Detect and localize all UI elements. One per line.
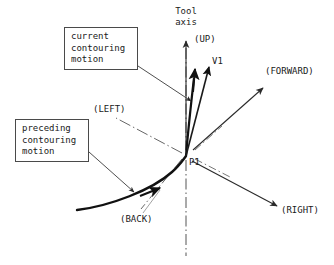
point-p1-label: P1	[189, 157, 200, 168]
tool-axis-title-line2: axis	[175, 17, 197, 27]
back-direction-label: (BACK)	[120, 214, 153, 225]
right-direction-stub	[195, 159, 232, 178]
forward-direction-label: (FORWARD)	[265, 66, 314, 77]
forward-direction-arrow	[193, 88, 263, 150]
tool-axis-diagram: Toolaxis (UP) V1 (FORWARD) (LEFT) (RIGHT…	[0, 0, 334, 265]
preceding-motion-callout-line3: motion	[22, 146, 83, 158]
v1-vector-label: V1	[212, 56, 223, 67]
back-direction-axis	[141, 159, 182, 209]
right-direction-arrow	[192, 161, 277, 206]
left-direction-label: (LEFT)	[93, 104, 126, 115]
right-direction-label: (RIGHT)	[281, 205, 319, 216]
preceding-motion-callout-line1: preceding	[22, 123, 83, 135]
up-direction-label: (UP)	[194, 34, 216, 45]
preceding-callout-leader	[89, 152, 134, 192]
current-tangent-arrowhead	[193, 69, 195, 92]
forward-direction-stub	[195, 126, 222, 150]
current-motion-callout-line1: current	[71, 31, 132, 43]
tool-axis-title-line1: Tool	[175, 6, 197, 16]
current-motion-callout-line3: motion	[71, 54, 132, 66]
preceding-motion-callout: preceding contouring motion	[15, 119, 89, 162]
preceding-contouring-curve	[77, 156, 186, 210]
preceding-motion-callout-line2: contouring	[22, 135, 83, 147]
tool-axis-title: Toolaxis	[160, 6, 212, 28]
current-motion-callout-line2: contouring	[71, 43, 132, 55]
left-direction-axis	[116, 118, 182, 153]
current-callout-leader	[138, 66, 191, 101]
current-motion-callout: current contouring motion	[64, 27, 138, 70]
